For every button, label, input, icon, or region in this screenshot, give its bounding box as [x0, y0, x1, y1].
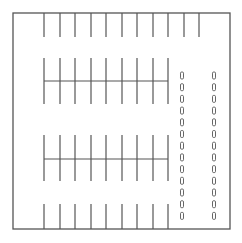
lane-dash — [181, 189, 184, 196]
lane-dash — [181, 95, 184, 102]
lane-dash — [181, 131, 184, 138]
middle-row-1 — [44, 58, 168, 104]
lane-dash — [213, 84, 216, 91]
lane-dash — [181, 201, 184, 208]
bottom-row — [44, 204, 168, 229]
lane-dash — [213, 166, 216, 173]
lane-dash — [181, 72, 184, 79]
lane-dash — [181, 119, 184, 126]
parking-lot-diagram — [0, 0, 242, 243]
lane-dash — [213, 201, 216, 208]
top-row — [44, 13, 199, 37]
lane-dash — [181, 177, 184, 184]
dash-column-right — [213, 72, 216, 219]
lane-dash — [213, 131, 216, 138]
lane-dash — [213, 177, 216, 184]
lane-dash — [181, 142, 184, 149]
lane-dash — [213, 72, 216, 79]
lane-dash — [213, 212, 216, 219]
lane-dash — [213, 142, 216, 149]
lane-dash — [181, 84, 184, 91]
dash-column-left — [181, 72, 184, 219]
lane-dash — [181, 154, 184, 161]
lane-dash — [213, 189, 216, 196]
lot-border — [13, 13, 230, 229]
middle-row-2 — [44, 135, 168, 181]
lane-dash — [213, 154, 216, 161]
lane-dash — [213, 95, 216, 102]
lane-dash — [181, 166, 184, 173]
lane-dash — [213, 107, 216, 114]
lane-dash — [181, 212, 184, 219]
lane-dash — [181, 107, 184, 114]
lane-dash — [213, 119, 216, 126]
